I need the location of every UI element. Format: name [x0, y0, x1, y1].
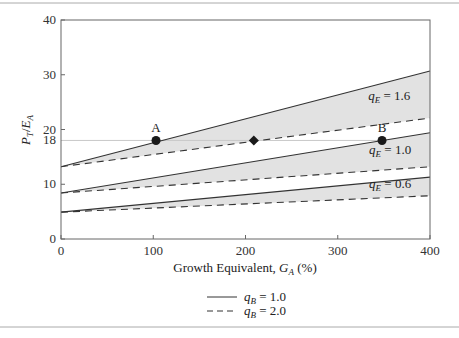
legend: qB = 1.0 qB = 2.0 — [207, 289, 286, 320]
point-label-B: B — [378, 120, 387, 135]
chart: 010020030040001018203040 ABqE = 1.6qE = … — [0, 0, 459, 338]
band-label-qE-1.0: qE = 1.0 — [369, 142, 411, 159]
legend-entry-dashed: qB = 2.0 — [207, 303, 286, 320]
point-label-A: A — [151, 120, 161, 135]
x-tick-label: 200 — [236, 243, 256, 258]
y-tick-label: 30 — [43, 67, 56, 82]
y-axis-title: PT/EA — [18, 114, 35, 146]
band-label-qE-1.6: qE = 1.6 — [368, 88, 411, 105]
y-tick-label: 0 — [50, 231, 57, 246]
x-tick-label: 100 — [144, 243, 164, 258]
point-marker-A — [152, 136, 161, 145]
y-tick-label: 20 — [43, 122, 56, 137]
band-label-qE-0.6: qE = 0.6 — [369, 176, 412, 193]
y-tick-label: 10 — [43, 176, 56, 191]
x-tick-label: 0 — [58, 243, 65, 258]
x-tick-label: 300 — [328, 243, 348, 258]
y-tick-label: 40 — [43, 12, 56, 27]
x-axis-title: Growth Equivalent, GA (%) — [173, 260, 316, 277]
x-tick-label: 400 — [420, 243, 440, 258]
legend-label-dashed: qB = 2.0 — [244, 303, 286, 320]
